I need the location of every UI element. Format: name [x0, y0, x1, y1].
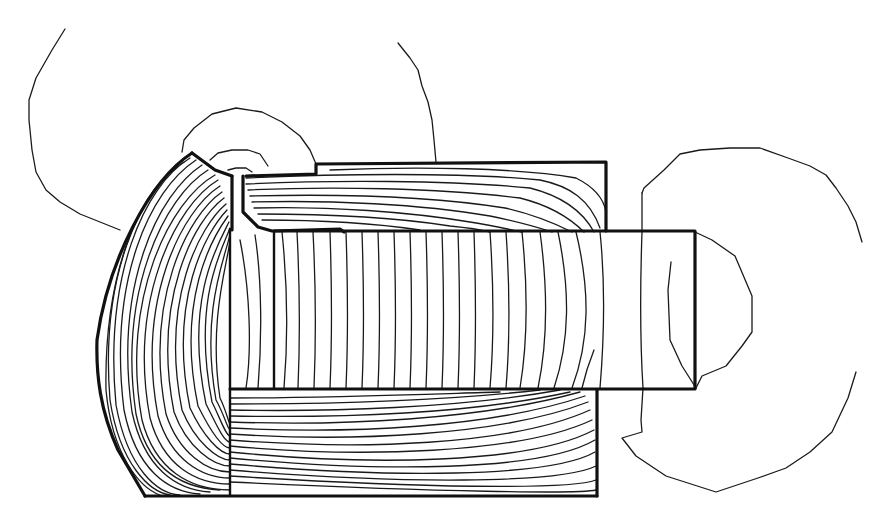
- flux-diagram: [0, 0, 882, 524]
- flux-lines-core: [106, 158, 230, 495]
- flux-lines-upper-yoke: [246, 168, 606, 232]
- flux-lines-plunger: [240, 232, 643, 388]
